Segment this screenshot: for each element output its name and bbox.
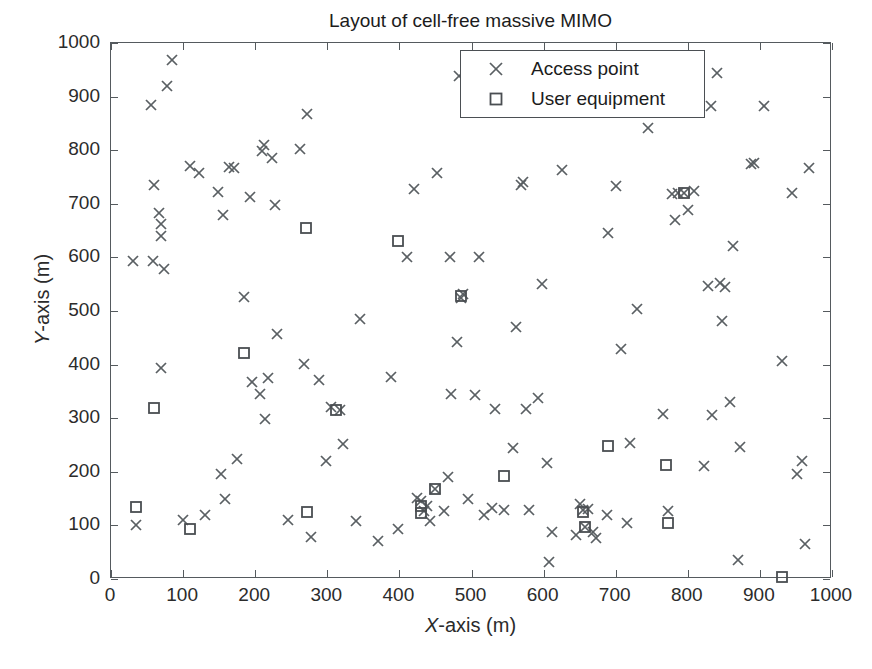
x-tick-label: 500	[455, 584, 487, 606]
x-tick-mark	[544, 570, 545, 577]
y-tick-mark-right	[823, 365, 830, 366]
y-tick-label: 700	[68, 192, 100, 214]
x-tick-mark	[255, 570, 256, 577]
legend-label-access-point: Access point	[531, 58, 639, 80]
y-tick-mark	[111, 257, 118, 258]
x-axis-label: X-axis (m)	[110, 614, 831, 637]
y-tick-mark	[111, 43, 118, 44]
x-tick-mark-top	[183, 43, 184, 50]
y-tick-mark-right	[823, 204, 830, 205]
y-axis-label: Y-axis (m)	[31, 220, 54, 380]
x-axis-label-var: X	[425, 614, 438, 636]
x-tick-mark-top	[255, 43, 256, 50]
x-tick-mark	[399, 570, 400, 577]
y-tick-mark	[111, 204, 118, 205]
x-tick-mark	[111, 570, 112, 577]
y-tick-label: 500	[68, 299, 100, 321]
x-tick-label: 200	[238, 584, 270, 606]
x-tick-mark-top	[472, 43, 473, 50]
x-tick-mark-top	[399, 43, 400, 50]
y-tick-mark-right	[823, 579, 830, 580]
y-tick-label: 0	[89, 567, 100, 589]
y-tick-mark-right	[823, 97, 830, 98]
x-tick-mark-top	[832, 43, 833, 50]
y-axis-label-rest: -axis (m)	[31, 254, 53, 332]
y-axis-label-var: Y	[31, 332, 53, 345]
x-tick-mark	[832, 570, 833, 577]
y-tick-mark-right	[823, 43, 830, 44]
y-tick-mark-right	[823, 257, 830, 258]
x-tick-mark	[688, 570, 689, 577]
x-tick-mark-top	[688, 43, 689, 50]
x-tick-label: 900	[743, 584, 775, 606]
y-tick-mark	[111, 150, 118, 151]
x-tick-label: 800	[671, 584, 703, 606]
y-tick-mark-right	[823, 472, 830, 473]
x-tick-mark-top	[760, 43, 761, 50]
legend-item-access-point: Access point	[461, 54, 704, 84]
x-axis-label-rest: -axis (m)	[438, 614, 516, 636]
x-tick-mark	[472, 570, 473, 577]
legend: Access point User equipment	[460, 50, 705, 118]
plot-area	[110, 42, 831, 578]
y-tick-label: 400	[68, 353, 100, 375]
y-tick-mark	[111, 418, 118, 419]
x-tick-mark-top	[327, 43, 328, 50]
y-tick-label: 900	[68, 85, 100, 107]
x-tick-label: 300	[310, 584, 342, 606]
y-tick-label: 100	[68, 513, 100, 535]
x-marker-icon	[461, 61, 531, 77]
page-title: Layout of cell-free massive MIMO	[110, 10, 831, 32]
y-tick-mark	[111, 579, 118, 580]
y-tick-label: 800	[68, 138, 100, 160]
y-tick-mark-right	[823, 150, 830, 151]
legend-label-user-equipment: User equipment	[531, 88, 665, 110]
y-tick-mark	[111, 365, 118, 366]
y-tick-mark	[111, 472, 118, 473]
y-tick-label: 200	[68, 460, 100, 482]
y-tick-mark	[111, 97, 118, 98]
figure-canvas: Layout of cell-free massive MIMO 0100200…	[0, 0, 872, 669]
x-tick-label: 400	[383, 584, 415, 606]
x-tick-mark	[616, 570, 617, 577]
x-tick-label: 0	[105, 584, 116, 606]
x-tick-mark	[760, 570, 761, 577]
legend-item-user-equipment: User equipment	[461, 84, 704, 114]
x-tick-label: 700	[599, 584, 631, 606]
y-tick-mark-right	[823, 525, 830, 526]
x-tick-mark-top	[616, 43, 617, 50]
x-tick-label: 600	[527, 584, 559, 606]
x-tick-mark	[183, 570, 184, 577]
y-tick-mark	[111, 311, 118, 312]
y-tick-mark-right	[823, 311, 830, 312]
square-marker-icon	[461, 91, 531, 107]
y-tick-label: 300	[68, 406, 100, 428]
y-tick-mark-right	[823, 418, 830, 419]
y-tick-label: 1000	[58, 31, 100, 53]
x-tick-label: 1000	[810, 584, 852, 606]
x-tick-label: 100	[166, 584, 198, 606]
x-tick-mark-top	[111, 43, 112, 50]
y-tick-mark	[111, 525, 118, 526]
x-tick-mark	[327, 570, 328, 577]
y-tick-label: 600	[68, 245, 100, 267]
x-tick-mark-top	[544, 43, 545, 50]
